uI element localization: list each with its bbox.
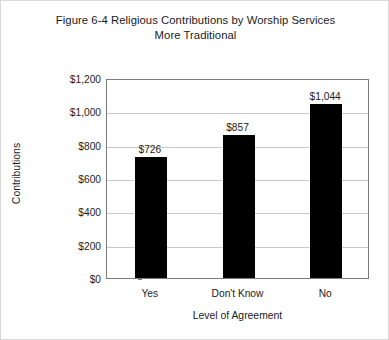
- x-axis-tick-label: Yes: [141, 288, 158, 299]
- x-axis-tick-label: No: [319, 288, 332, 299]
- y-axis-tick-label: $400: [78, 207, 101, 218]
- y-axis-title: Contributions: [11, 128, 22, 220]
- bar-value-label: $1,044: [310, 91, 341, 102]
- bar: [310, 104, 342, 278]
- plot-area: [106, 79, 369, 279]
- bar-value-label: $726: [138, 144, 161, 155]
- y-axis-tick-label: $0: [90, 274, 101, 285]
- bar-value-label: $857: [226, 122, 249, 133]
- x-axis-title: Level of Agreement: [106, 310, 369, 321]
- x-axis-tick-label: Don't Know: [212, 288, 264, 299]
- y-axis-tick-labels: $0$200$400$600$800$1,000$1,200: [37, 1, 101, 340]
- y-axis-tick-label: $1,000: [70, 107, 101, 118]
- y-axis-tick-label: $800: [78, 140, 101, 151]
- y-axis-tick-mark: [138, 279, 142, 280]
- y-axis-tick-label: $1,200: [70, 74, 101, 85]
- y-axis-tick-label: $600: [78, 174, 101, 185]
- y-axis-tick-label: $200: [78, 240, 101, 251]
- bar: [223, 135, 255, 278]
- bar: [135, 157, 167, 278]
- chart-figure: Figure 6-4 Religious Contributions by Wo…: [0, 0, 389, 340]
